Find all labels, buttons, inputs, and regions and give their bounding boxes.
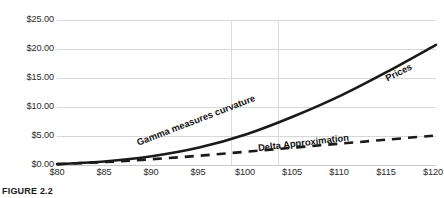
x-axis-tick-label: $100 <box>225 167 265 178</box>
x-axis-labels: $80 $85 $90 $95 $100 $105 $110 $115 $120 <box>0 167 444 183</box>
x-axis-tick-label: $85 <box>84 167 124 178</box>
figure-caption: FIGURE 2.2 <box>2 186 302 198</box>
x-axis-tick-label: $115 <box>366 167 406 178</box>
x-axis-tick-label: $105 <box>272 167 312 178</box>
figure-caption-text: FIGURE 2.2 <box>2 186 302 197</box>
x-axis-tick-label: $120 <box>413 167 444 178</box>
x-axis-tick-label: $95 <box>178 167 218 178</box>
x-axis-tick-label: $90 <box>131 167 171 178</box>
x-axis-tick-label: $80 <box>37 167 77 178</box>
figure-container: $25.00 $20.00 $15.00 $10.00 $5.00 $0.00 … <box>0 0 444 198</box>
x-axis-tick-label: $110 <box>319 167 359 178</box>
